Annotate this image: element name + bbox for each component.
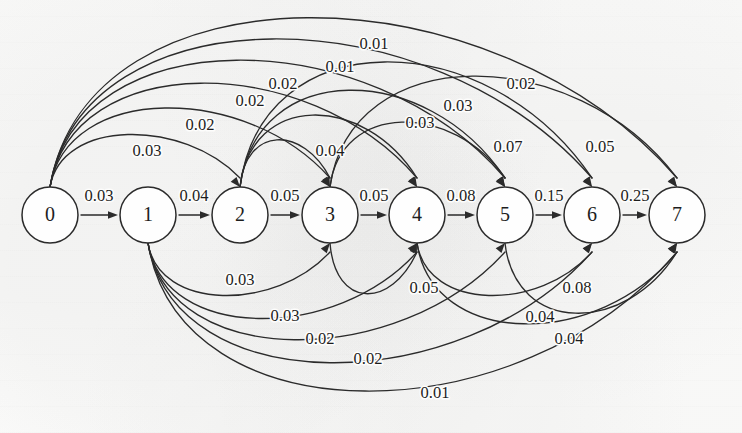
edge-weight-6-7: 0.25 [621, 186, 650, 205]
arrowhead-6-7 [637, 211, 647, 219]
arc-1-6 [148, 243, 592, 363]
edge-weight-1-2: 0.04 [180, 186, 209, 205]
arc-weight-1-6: 0.02 [354, 349, 383, 368]
node-label-5: 5 [500, 203, 510, 225]
arrowhead-1-3 [321, 243, 330, 253]
edge-weight-2-3: 0.05 [271, 186, 300, 205]
arc-weight-0-6: 0.01 [326, 57, 355, 76]
arrowhead-5-6 [552, 211, 562, 219]
arc-weight-2-4: 0.03 [406, 113, 435, 132]
node-label-6: 6 [587, 203, 597, 225]
edge-weight-3-4: 0.05 [360, 186, 389, 205]
arrowhead-1-5 [496, 243, 505, 253]
edge-weight-4-5: 0.08 [447, 186, 476, 205]
arrowhead-3-4 [377, 211, 387, 219]
arc-weight-0-2: 0.03 [133, 141, 162, 160]
arrowhead-3-7 [668, 177, 677, 187]
node-label-1: 1 [143, 203, 153, 225]
diagram-canvas: 01234567 0.030.030.040.040.050.050.050.0… [0, 0, 742, 433]
arrowhead-4-6 [583, 243, 592, 253]
lower-arc-layer [148, 243, 677, 391]
arc-3-4 [330, 243, 417, 294]
arrowhead-1-2 [200, 211, 210, 219]
arc-weight-3-7: 0.05 [586, 137, 615, 156]
arc-weight-1-7: 0.01 [421, 383, 450, 402]
arc-weight-0-4: 0.02 [236, 91, 265, 110]
state-transition-graph: 01234567 0.030.030.040.040.050.050.050.0… [0, 0, 742, 433]
arc-weight-1-3: 0.03 [226, 270, 255, 289]
arc-3-5 [330, 122, 505, 187]
arc-1-7 [148, 243, 677, 391]
arrowhead-0-2 [231, 177, 240, 187]
node-label-0: 0 [45, 203, 55, 225]
arc-weight-0-3: 0.02 [186, 115, 215, 134]
arc-weight-2-3: 0.04 [316, 141, 345, 160]
arc-weight-0-5: 0.02 [269, 74, 298, 93]
edge-weight-0-1: 0.03 [85, 186, 114, 205]
arc-weight-2-5: 0.03 [444, 96, 473, 115]
node-label-7: 7 [672, 203, 682, 225]
node-label-4: 4 [412, 203, 422, 225]
arc-weight-5-7: 0.04 [555, 329, 584, 348]
arc-weight-3-4: 0.05 [410, 278, 439, 297]
arrowhead-0-1 [108, 211, 118, 219]
arc-1-5 [148, 243, 505, 340]
arc-weight-0-7: 0.01 [360, 34, 389, 53]
arrowhead-2-3 [290, 211, 300, 219]
arc-weight-4-6: 0.08 [563, 278, 592, 297]
node-label-2: 2 [235, 203, 245, 225]
edge-weight-5-6: 0.15 [535, 186, 564, 205]
arc-weight-4-7: 0.04 [526, 307, 555, 326]
arc-weight-3-5: 0.07 [494, 137, 523, 156]
node-label-3: 3 [325, 203, 335, 225]
arc-weight-1-5: 0.02 [306, 329, 335, 348]
arc-weight-2-6: 0.02 [507, 74, 536, 93]
arc-weight-1-4: 0.03 [271, 306, 300, 325]
arrowhead-4-5 [465, 211, 475, 219]
